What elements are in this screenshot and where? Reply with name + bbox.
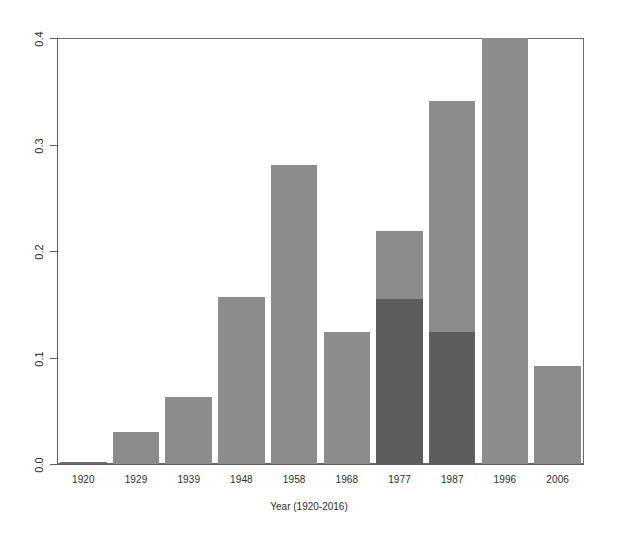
x-tick-label-1977: 1977 bbox=[373, 474, 426, 485]
y-tick-label: 0.3 bbox=[0, 134, 46, 156]
y-tick-mark bbox=[50, 38, 57, 39]
bar-segment-front bbox=[429, 332, 476, 464]
y-tick-mark bbox=[50, 464, 57, 465]
bar-segment-back bbox=[165, 397, 212, 464]
bar-1987 bbox=[429, 101, 476, 464]
x-tick-label-1939: 1939 bbox=[162, 474, 215, 485]
bar-1977 bbox=[376, 231, 423, 464]
bar-segment-front bbox=[376, 299, 423, 464]
bar-1968 bbox=[324, 332, 371, 464]
bar-segment-back bbox=[482, 38, 529, 464]
bar-segment-back bbox=[534, 366, 581, 464]
bar-1958 bbox=[271, 165, 318, 464]
x-tick-label-1920: 1920 bbox=[57, 474, 110, 485]
y-tick-mark bbox=[50, 145, 57, 146]
y-tick-mark bbox=[50, 251, 57, 252]
bar-1996 bbox=[482, 38, 529, 464]
bar-1929 bbox=[113, 432, 160, 464]
x-axis-title: Year (1920-2016) bbox=[0, 501, 618, 512]
y-axis-line bbox=[57, 38, 58, 465]
bar-segment-back bbox=[218, 297, 265, 464]
x-tick-label-1958: 1958 bbox=[268, 474, 321, 485]
y-tick-mark bbox=[50, 358, 57, 359]
y-tick-label: 0.0 bbox=[0, 453, 46, 475]
x-tick-label-1929: 1929 bbox=[110, 474, 163, 485]
bars-layer bbox=[57, 38, 584, 464]
bar-segment-back bbox=[113, 432, 160, 464]
x-tick-label-1968: 1968 bbox=[321, 474, 374, 485]
y-tick-label: 0.1 bbox=[0, 347, 46, 369]
x-tick-label-1996: 1996 bbox=[479, 474, 532, 485]
x-tick-label-1987: 1987 bbox=[426, 474, 479, 485]
x-axis-line bbox=[57, 464, 584, 465]
x-tick-label-2006: 2006 bbox=[531, 474, 584, 485]
bar-2006 bbox=[534, 366, 581, 464]
bar-chart: 0.00.10.20.30.4 192019291939194819581968… bbox=[0, 0, 618, 538]
x-tick-label-1948: 1948 bbox=[215, 474, 268, 485]
bar-segment-back bbox=[324, 332, 371, 464]
bar-segment-back bbox=[271, 165, 318, 464]
y-tick-label: 0.4 bbox=[0, 27, 46, 49]
bar-1939 bbox=[165, 397, 212, 464]
bar-1948 bbox=[218, 297, 265, 464]
y-tick-label: 0.2 bbox=[0, 240, 46, 262]
